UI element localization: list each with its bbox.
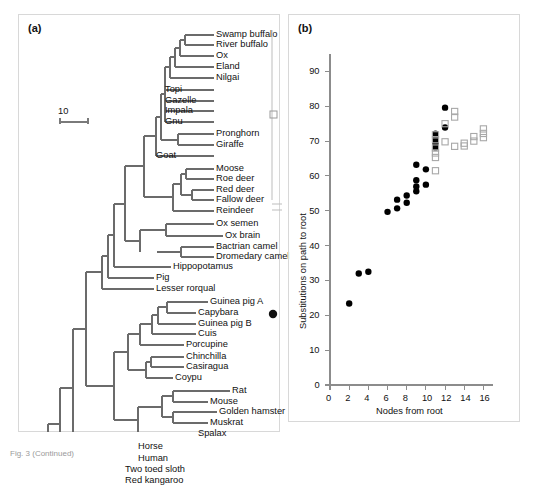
x-axis-title: Nodes from root (376, 406, 443, 416)
y-tick-label: 90 (309, 66, 319, 76)
tip-label: Eland (216, 62, 240, 71)
data-point-filled-circle (356, 270, 362, 276)
data-point-filled-circle (394, 205, 400, 211)
tip-label: Topi (165, 85, 182, 94)
tip-label: Gnu (165, 117, 183, 126)
data-point-filled-circle (413, 183, 419, 189)
rodent-bracket-marker-filled-circle (269, 310, 277, 318)
tip-label: Ox brain (225, 231, 260, 240)
series-artiodactyla-points (432, 108, 486, 173)
x-tick-label: 12 (441, 393, 451, 403)
y-tick-label: 50 (309, 206, 319, 216)
panel-a-tree: (a) 10 (18, 14, 280, 438)
x-tick-label: 2 (345, 393, 350, 403)
tip-label: Ox semen (216, 219, 258, 228)
tip-label: Pig (156, 273, 169, 282)
data-point-filled-circle (413, 177, 419, 183)
tip-label: Chinchilla (186, 352, 226, 361)
data-point-open-square (442, 139, 448, 145)
y-tick-label: 80 (309, 101, 319, 111)
tip-label: Two toed sloth (125, 465, 185, 474)
tip-label: Rat (232, 386, 246, 395)
x-tick-label: 6 (384, 393, 389, 403)
tip-label: Lesser rorqual (156, 284, 215, 293)
tip-label: Giraffe (216, 140, 244, 149)
data-point-filled-circle (442, 124, 448, 130)
data-point-filled-circle (423, 181, 429, 187)
data-point-open-square (432, 154, 438, 160)
tip-label: Moose (216, 164, 244, 173)
data-point-filled-circle (394, 196, 400, 202)
tip-label: Ox (216, 51, 228, 60)
x-tick-label: 4 (364, 393, 369, 403)
y-tick-label: 20 (309, 310, 319, 320)
x-tick-label: 10 (422, 393, 432, 403)
y-tick-label: 40 (309, 241, 319, 251)
tip-label: Pronghorn (216, 129, 259, 138)
data-point-filled-circle (423, 166, 429, 172)
tip-label: Red deer (216, 185, 254, 194)
data-point-filled-circle (442, 104, 448, 110)
scale-bar (60, 118, 88, 124)
data-point-open-square (471, 133, 477, 139)
tip-label: Hippopotamus (173, 262, 233, 271)
data-point-open-square (471, 138, 477, 144)
data-point-open-square (452, 143, 458, 149)
data-point-open-square (480, 130, 486, 136)
data-point-filled-circle (384, 209, 390, 215)
tip-label: Spalax (198, 429, 226, 438)
tip-label: Casiragua (186, 362, 228, 371)
x-tick-label: 0 (326, 393, 331, 403)
y-tick-label: 60 (309, 171, 319, 181)
tip-label: Goat (156, 151, 176, 160)
x-tick-label: 8 (403, 393, 408, 403)
y-tick-label: 10 (309, 345, 319, 355)
tip-label: Guinea pig B (198, 319, 252, 328)
artiodactyl-bracket-marker-open-square (270, 111, 277, 118)
x-tick-label: 16 (479, 393, 489, 403)
tip-label: Gazelle (165, 96, 197, 105)
data-point-filled-circle (404, 200, 410, 206)
tip-label: Guinea pig A (210, 297, 263, 306)
tip-label: Red kangaroo (125, 476, 183, 485)
tip-label: Coypu (175, 373, 202, 382)
tip-label: Porcupine (186, 340, 228, 349)
tip-label: River buffalo (216, 40, 268, 49)
x-tick-label: 14 (460, 393, 470, 403)
tip-label: Horse (138, 442, 163, 451)
tip-label: Mouse (210, 397, 238, 406)
y-tick-label: 70 (309, 136, 319, 146)
y-tick-label: 0 (315, 380, 320, 390)
data-point-open-square (480, 135, 486, 141)
scatter-plot (288, 14, 520, 422)
data-point-filled-circle (404, 192, 410, 198)
data-point-filled-circle (413, 162, 419, 168)
tip-label: Capybara (198, 308, 238, 317)
tip-label: Fallow deer (216, 195, 264, 204)
data-point-filled-circle (346, 300, 352, 306)
tip-label: Human (138, 454, 168, 463)
tip-label: Nilgai (216, 73, 239, 82)
data-point-open-square (480, 126, 486, 132)
tip-label: Roe deer (216, 174, 254, 183)
y-axis-title: Substitutions on path to root (298, 213, 308, 329)
data-point-filled-circle (365, 269, 371, 275)
tip-label: Reindeer (216, 206, 254, 215)
data-point-open-square (432, 168, 438, 174)
panel-b-scatter: (b) 02468101214160102030405060708090 Nod… (288, 14, 520, 438)
figure-caption: Fig. 3 (Continued) (10, 449, 74, 458)
tip-label: Impala (165, 106, 193, 115)
tip-label: Golden hamster (219, 407, 285, 416)
y-tick-label: 30 (309, 275, 319, 285)
tip-label: Cuis (198, 329, 217, 338)
tip-label: Muskrat (210, 418, 243, 427)
